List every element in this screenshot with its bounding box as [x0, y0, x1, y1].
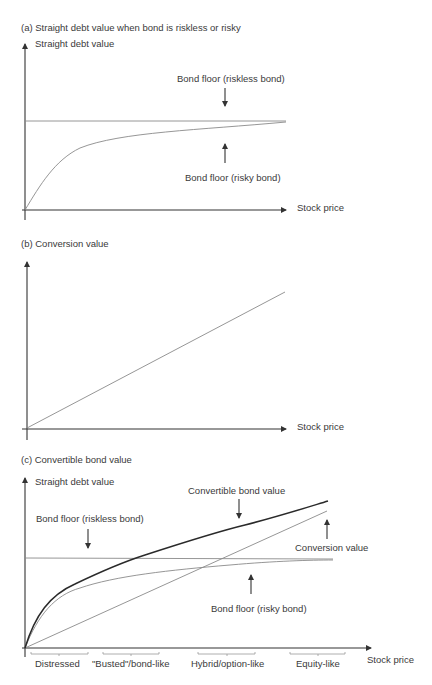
region-label-distressed: Distressed	[35, 658, 80, 669]
panel-b-title: (b) Conversion value	[21, 238, 109, 249]
panel-c: (c) Convertible bond value Straight debt…	[21, 454, 414, 669]
region-bracket-hybrid	[198, 652, 255, 656]
panel-c-risky-label: Bond floor (risky bond)	[211, 603, 307, 614]
region-label-busted: "Busted"/bond-like	[92, 658, 170, 669]
panel-a-y-axis-label: Straight debt value	[35, 38, 114, 49]
panel-b-conversion-value-line	[27, 292, 285, 428]
panel-b: (b) Conversion value Stock price	[21, 238, 344, 440]
panel-c-riskless-label: Bond floor (riskless bond)	[36, 513, 144, 524]
panel-c-title: (c) Convertible bond value	[21, 454, 132, 465]
region-label-hybrid: Hybrid/option-like	[191, 658, 264, 669]
region-bracket-distressed	[31, 652, 88, 656]
panel-c-y-axis-label: Straight debt value	[35, 476, 114, 487]
region-bracket-busted	[103, 652, 159, 656]
panel-a-risky-label: Bond floor (risky bond)	[185, 172, 281, 183]
panel-b-x-axis-label: Stock price	[297, 421, 344, 432]
panel-a: (a) Straight debt value when bond is ris…	[21, 22, 344, 220]
panel-c-x-axis-label: Stock price	[367, 654, 414, 665]
region-label-equity: Equity-like	[296, 658, 340, 669]
panel-c-convertible-label: Convertible bond value	[188, 485, 285, 496]
panel-c-conversion-value-line	[25, 511, 327, 648]
panel-c-riskless-floor-line	[25, 558, 333, 559]
panel-a-x-axis-label: Stock price	[297, 202, 344, 213]
region-bracket-equity	[290, 652, 345, 656]
panel-c-region-brackets	[31, 652, 345, 656]
panel-a-title: (a) Straight debt value when bond is ris…	[21, 22, 241, 33]
panel-a-risky-floor-curve	[25, 122, 286, 210]
panel-c-conversion-label: Conversion value	[295, 542, 368, 553]
convertible-bond-diagram: (a) Straight debt value when bond is ris…	[0, 0, 432, 685]
panel-a-riskless-label: Bond floor (riskless bond)	[177, 73, 285, 84]
